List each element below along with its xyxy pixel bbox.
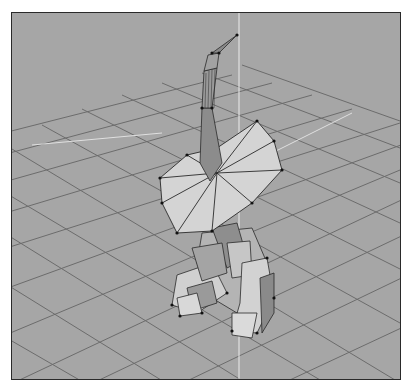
3d-viewport[interactable] — [11, 12, 401, 380]
creature-collar[interactable] — [160, 121, 282, 233]
scene-canvas[interactable] — [12, 13, 400, 379]
